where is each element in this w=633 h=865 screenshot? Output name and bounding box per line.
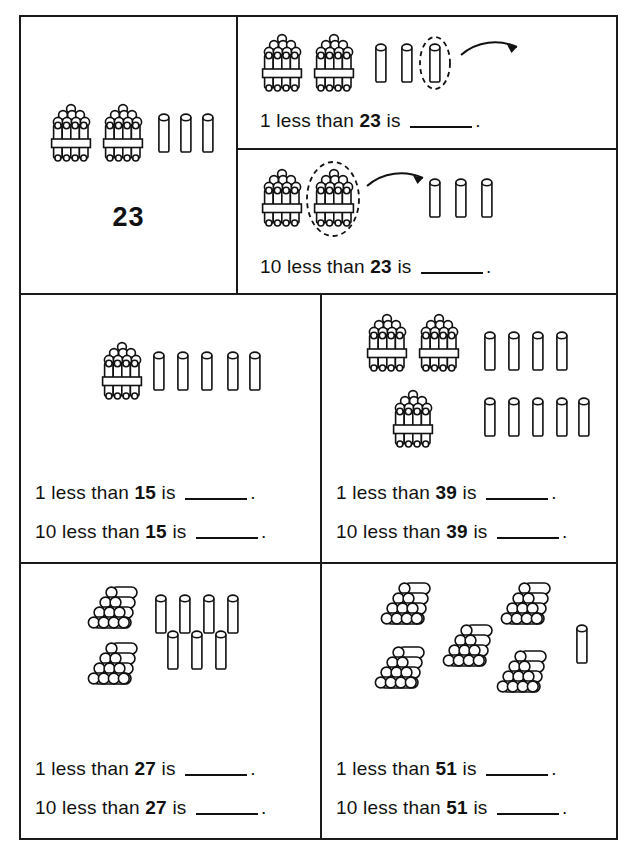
single-unit [154, 352, 164, 390]
statement-suffix: is [387, 110, 401, 131]
statement-number: 15 [145, 521, 167, 542]
single-unit [485, 332, 495, 370]
statement-prefix: 10 less than [260, 256, 365, 277]
stack-of-ten [375, 647, 424, 688]
single-unit [402, 44, 412, 82]
base-ten-model-23-minus-10 [261, 162, 541, 242]
reference-number: 23 [21, 202, 236, 233]
statement-number: 51 [446, 797, 468, 818]
statement-period: . [250, 758, 255, 779]
cell-10-less-than-23: 10 less than 23 is . [236, 148, 616, 293]
bundle-of-ten [394, 391, 433, 447]
single-unit [159, 114, 169, 152]
single-unit [376, 44, 386, 82]
single-unit [228, 595, 238, 633]
single-unit [168, 631, 178, 669]
single-unit [192, 631, 202, 669]
statement-suffix: is [473, 797, 487, 818]
statement-period: . [261, 797, 266, 818]
bundle-of-ten [104, 105, 143, 161]
bundle-of-ten [103, 343, 142, 399]
statement-suffix: is [473, 521, 487, 542]
cell-1-less-than-23: 1 less than 23 is . [236, 17, 616, 148]
bundle-of-ten [52, 105, 91, 161]
base-ten-model-51 [350, 580, 600, 710]
statement-period: . [551, 482, 556, 503]
answer-blank[interactable] [410, 113, 472, 128]
statement-prefix: 10 less than [336, 521, 441, 542]
statement-suffix: is [172, 797, 186, 818]
statement-prefix: 10 less than [35, 797, 140, 818]
statement-suffix: is [162, 482, 176, 503]
single-unit [180, 595, 190, 633]
answer-blank[interactable] [196, 524, 258, 539]
base-ten-model-15 [101, 339, 291, 401]
statement-period: . [475, 110, 480, 131]
single-unit [456, 179, 466, 217]
statement-number: 27 [135, 758, 157, 779]
single-unit [557, 398, 567, 436]
base-ten-model-23 [50, 101, 225, 163]
bundle-of-ten [263, 170, 302, 226]
statement-number: 51 [436, 758, 458, 779]
stack-of-ten [381, 583, 430, 624]
statement-suffix: is [397, 256, 411, 277]
statement-period: . [562, 521, 567, 542]
statement-prefix: 1 less than [336, 482, 430, 503]
statement-number: 23 [370, 256, 392, 277]
single-unit [250, 352, 260, 390]
single-unit [485, 398, 495, 436]
single-unit [579, 398, 589, 436]
answer-blank[interactable] [497, 524, 559, 539]
cell-51: 1 less than 51 is . 10 less than 51 is . [320, 562, 616, 840]
statement-1-less-than-39: 1 less than 39 is . [336, 482, 557, 504]
bundle-of-ten [315, 170, 354, 226]
base-ten-model-27 [79, 584, 289, 699]
answer-blank[interactable] [421, 259, 483, 274]
stack-of-ten [443, 625, 492, 666]
statement-prefix: 10 less than [35, 521, 140, 542]
answer-blank[interactable] [196, 800, 258, 815]
single-unit [228, 352, 238, 390]
statement-1-less-than-51: 1 less than 51 is . [336, 758, 557, 780]
statement-period: . [486, 256, 491, 277]
single-unit [204, 595, 214, 633]
cell-15: 1 less than 15 is . 10 less than 15 is . [21, 293, 320, 562]
statement-period: . [261, 521, 266, 542]
statement-number: 23 [360, 110, 382, 131]
answer-blank[interactable] [497, 800, 559, 815]
answer-blank[interactable] [486, 485, 548, 500]
statement-10-less-than-23: 10 less than 23 is . [260, 256, 491, 278]
answer-blank[interactable] [185, 761, 247, 776]
statement-prefix: 1 less than [35, 482, 129, 503]
stack-of-ten [501, 583, 550, 624]
cell-39: 1 less than 39 is . 10 less than 39 is . [320, 293, 616, 562]
answer-blank[interactable] [185, 485, 247, 500]
stack-of-ten [88, 587, 137, 628]
single-unit [178, 352, 188, 390]
statement-10-less-than-15: 10 less than 15 is . [35, 521, 266, 543]
single-unit [482, 179, 492, 217]
answer-blank[interactable] [486, 761, 548, 776]
statement-suffix: is [172, 521, 186, 542]
base-ten-model-23-minus-1 [261, 29, 541, 109]
single-unit [577, 625, 587, 663]
single-unit [216, 631, 226, 669]
statement-10-less-than-27: 10 less than 27 is . [35, 797, 266, 819]
statement-10-less-than-39: 10 less than 39 is . [336, 521, 567, 543]
single-unit [181, 114, 191, 152]
statement-number: 39 [446, 521, 468, 542]
statement-number: 27 [145, 797, 167, 818]
single-unit [203, 114, 213, 152]
single-unit [156, 595, 166, 633]
statement-1-less-than-23: 1 less than 23 is . [260, 110, 481, 132]
statement-prefix: 1 less than [260, 110, 354, 131]
worksheet-border: 23 1 less than 23 is . [19, 15, 618, 840]
base-ten-model-39 [366, 311, 596, 461]
removal-arrow-icon [367, 173, 423, 186]
single-unit [202, 352, 212, 390]
single-unit [430, 179, 440, 217]
bundle-of-ten [315, 35, 354, 91]
cell-27: 1 less than 27 is . 10 less than 27 is . [21, 562, 320, 840]
stack-of-ten [88, 643, 137, 684]
